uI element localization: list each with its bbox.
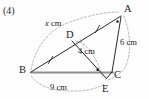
vertex-label-d: D [66, 30, 74, 41]
vertex-label-b: B [19, 65, 26, 76]
geometry-figure [0, 0, 149, 99]
dimension-label-6-cm: 6 cm [120, 38, 137, 47]
figure-panel: (4) A B C D E x cm 4 cm 6 cm 9 cm [0, 0, 149, 99]
angle-dot-a [116, 20, 118, 22]
dimension-label-9-cm: 9 cm [50, 83, 67, 92]
x-unit-text: cm [49, 18, 62, 28]
dimension-label-4-cm: 4 cm [78, 47, 95, 56]
vertex-label-e: E [102, 84, 108, 95]
item-number: (4) [3, 6, 15, 16]
tick-mark-bd [48, 56, 53, 64]
vertex-label-a: A [124, 4, 132, 15]
arc-9-cm [31, 76, 104, 91]
dimension-label-x-cm: x cm [45, 19, 61, 28]
right-angle-dot-e [97, 69, 99, 71]
vertex-label-c: C [114, 70, 121, 81]
